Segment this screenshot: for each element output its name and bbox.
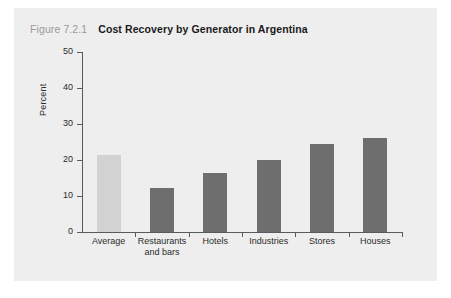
- x-axis-labels: AverageRestaurants and barsHotelsIndustr…: [82, 236, 402, 270]
- x-axis-label: Industries: [242, 236, 295, 247]
- x-axis-tick: [402, 232, 403, 237]
- bar-series: [82, 52, 402, 232]
- bar: [363, 138, 387, 232]
- y-axis-tick: 0: [77, 232, 82, 233]
- figure-number: Figure 7.2.1: [30, 23, 87, 35]
- x-axis-label: Hotels: [189, 236, 242, 247]
- bar-slot: [295, 52, 348, 232]
- x-axis-label: Houses: [349, 236, 402, 247]
- bar: [257, 160, 281, 232]
- y-axis-tick-label: 20: [63, 154, 73, 164]
- y-axis-title: Percent: [38, 84, 48, 116]
- bar-slot: [242, 52, 295, 232]
- x-axis-label: Restaurants and bars: [135, 236, 188, 258]
- x-axis-label: Average: [82, 236, 135, 247]
- bar: [203, 173, 227, 232]
- bar-slot: [82, 52, 135, 232]
- y-axis-tick-label: 30: [63, 118, 73, 128]
- figure-caption: Figure 7.2.1Cost Recovery by Generator i…: [30, 20, 308, 36]
- bar-slot: [135, 52, 188, 232]
- bar: [150, 188, 174, 232]
- bar-slot: [349, 52, 402, 232]
- y-axis-tick-label: 10: [63, 190, 73, 200]
- figure-panel: Figure 7.2.1Cost Recovery by Generator i…: [14, 8, 437, 281]
- bar: [310, 144, 334, 232]
- y-axis-tick-label: 50: [63, 46, 73, 56]
- bar: [97, 155, 121, 232]
- bar-slot: [189, 52, 242, 232]
- y-axis-tick-label: 40: [63, 82, 73, 92]
- y-axis-tick-label: 0: [68, 226, 73, 236]
- figure-title: Cost Recovery by Generator in Argentina: [98, 23, 307, 35]
- x-axis-label: Stores: [295, 236, 348, 247]
- plot-area: 01020304050: [82, 52, 402, 232]
